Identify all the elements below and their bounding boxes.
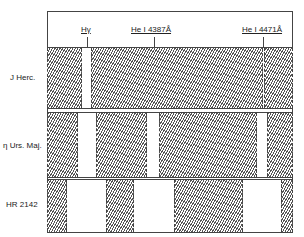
- hatched-region: [267, 113, 293, 177]
- hatched-region: [174, 180, 243, 232]
- line-label-hei-4471: He I 4471Å: [242, 25, 282, 34]
- line-marker-hgamma: [87, 37, 88, 47]
- hatched-region: [91, 48, 263, 108]
- row-label-eta-urs-maj: η Urs. Maj.: [3, 141, 42, 150]
- line-marker-hei-4387: [154, 37, 155, 47]
- spectrum-row-eta-urs-maj: [47, 112, 293, 178]
- hatched-region: [106, 180, 134, 232]
- hatched-region: [264, 48, 293, 108]
- spectrum-row-hr-2142: [47, 179, 293, 233]
- hatched-region: [281, 180, 293, 232]
- hatched-region: [47, 113, 78, 177]
- spectrum-row-j-herc: [47, 47, 293, 109]
- row-label-hr-2142: HR 2142: [6, 200, 38, 209]
- line-label-hgamma: Hγ: [81, 25, 91, 34]
- hatched-region: [96, 113, 147, 177]
- hatched-region: [159, 113, 257, 177]
- line-label-hei-4387: He I 4387Å: [131, 25, 171, 34]
- row-label-j-herc: J Herc.: [10, 73, 35, 82]
- hatched-region: [47, 48, 82, 108]
- line-marker-hei-4471: [263, 37, 264, 47]
- hatched-region: [47, 180, 67, 232]
